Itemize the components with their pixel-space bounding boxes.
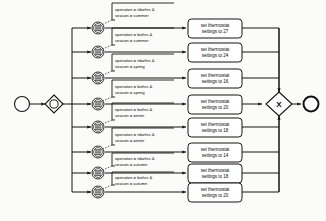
condition-line2-6: season = winter [115, 138, 145, 143]
bpmn-diagram-root: X operation = nbizhrs & season = summer [0, 0, 326, 221]
task-line1-1: set thermostat [201, 23, 230, 28]
conditional-intermediate-event-7[interactable] [92, 167, 104, 179]
conditional-intermediate-event-1[interactable] [92, 22, 104, 34]
conditional-intermediate-event-3[interactable] [92, 72, 104, 84]
task-line1-6: set thermostat [201, 147, 230, 152]
condition-line2-1: season = summer [115, 13, 149, 18]
end-event[interactable] [304, 97, 319, 112]
condition-annotation-3: operation = nbizhrs & season = spring [102, 54, 175, 76]
condition-annotation-8: operation = bizhrs & season = autumn [102, 172, 175, 190]
task-line1-7: set thermostat [201, 168, 230, 173]
condition-line1-4: operation = bizhrs & [115, 84, 153, 89]
task-line1-5: set thermostat [201, 122, 230, 127]
start-event[interactable] [15, 97, 30, 112]
task-1[interactable]: set thermostat settings to 27 [188, 19, 242, 38]
task-line2-5: settings to 18 [202, 128, 229, 133]
task-line1-8: set thermostat [201, 187, 230, 192]
condition-line2-3: season = spring [115, 64, 145, 69]
conditional-intermediate-event-2[interactable] [92, 46, 104, 58]
condition-annotation-1: operation = nbizhrs & season = summer [102, 3, 175, 25]
task-2[interactable]: set thermostat settings to 24 [188, 43, 242, 62]
task-line2-4: settings to 20 [202, 105, 229, 110]
task-line2-8: settings to 20 [202, 193, 229, 198]
task-line1-3: set thermostat [201, 73, 230, 78]
task-5[interactable]: set thermostat settings to 18 [188, 118, 242, 137]
join-gateway-label: X [276, 100, 282, 109]
condition-annotation-4: operation = bizhrs & season = spring [102, 80, 175, 102]
inclusive-split-gateway[interactable] [45, 95, 63, 113]
conditional-intermediate-event-8[interactable] [92, 186, 104, 198]
sequence-flow-network [30, 28, 301, 192]
condition-line1-6: operation = nbizhrs & [115, 132, 155, 137]
exclusive-join-gateway[interactable]: X [266, 92, 292, 116]
condition-line2-8: season = autumn [115, 181, 148, 186]
condition-annotation-7: operation = nbizhrs & season = autumn [102, 153, 175, 171]
conditional-intermediate-event-5[interactable] [92, 121, 104, 133]
task-8[interactable]: set thermostat settings to 20 [188, 183, 242, 202]
task-7[interactable]: set thermostat settings to 18 [188, 164, 242, 183]
bpmn-canvas: X operation = nbizhrs & season = summer [0, 0, 326, 221]
condition-line2-5: season = winter [115, 113, 145, 118]
conditional-intermediate-event-6[interactable] [92, 146, 104, 158]
task-3[interactable]: set thermostat settings to 16 [188, 69, 242, 88]
condition-annotation-5: operation = bizhrs & season = winter [102, 103, 175, 125]
conditional-intermediate-event-4[interactable] [92, 98, 104, 110]
task-line1-2: set thermostat [201, 47, 230, 52]
task-line1-4: set thermostat [201, 99, 230, 104]
task-6[interactable]: set thermostat settings to 14 [188, 143, 242, 162]
condition-line2-4: season = spring [115, 90, 145, 95]
condition-line1-8: operation = bizhrs & [115, 175, 153, 180]
condition-line1-2: operation = bizhrs & [115, 32, 153, 37]
condition-line1-7: operation = nbizhrs & [115, 156, 155, 161]
task-line2-3: settings to 16 [202, 79, 229, 84]
condition-annotation-2: operation = bizhrs & season = summer [102, 28, 175, 50]
condition-line1-1: operation = nbizhrs & [115, 7, 155, 12]
task-line2-1: settings to 27 [202, 29, 229, 34]
condition-line1-3: operation = nbizhrs & [115, 58, 155, 63]
task-line2-6: settings to 14 [202, 153, 229, 158]
condition-line1-5: operation = bizhrs & [115, 107, 153, 112]
task-line2-2: settings to 24 [202, 53, 229, 58]
condition-line2-2: season = summer [115, 38, 149, 43]
task-line2-7: settings to 18 [202, 174, 229, 179]
condition-annotation-6: operation = nbizhrs & season = winter [102, 128, 175, 150]
task-4[interactable]: set thermostat settings to 20 [188, 95, 242, 114]
condition-line2-7: season = autumn [115, 162, 148, 167]
